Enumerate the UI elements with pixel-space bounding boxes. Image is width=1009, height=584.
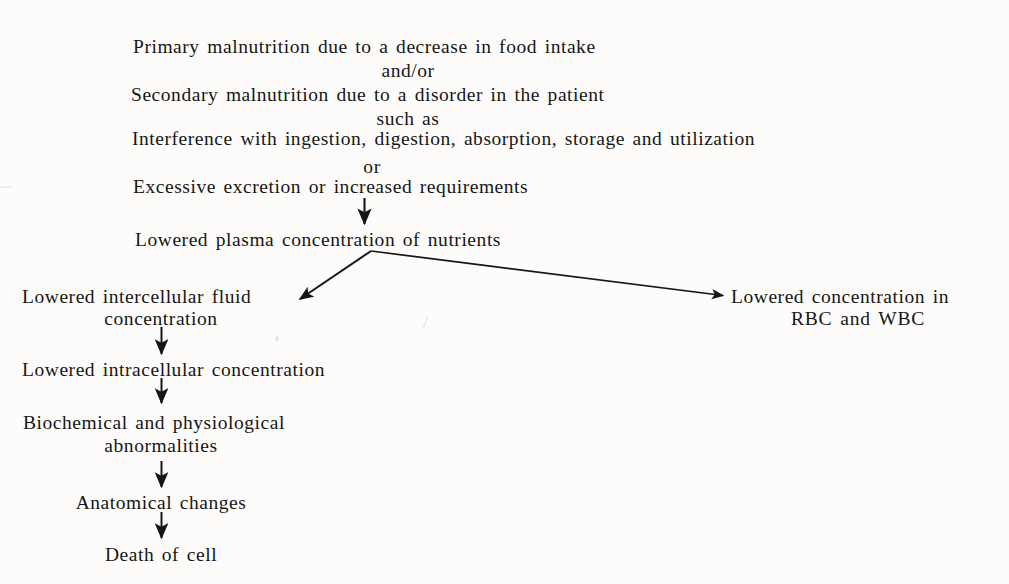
scan-slash-mark	[423, 316, 428, 329]
node-excessive-excretion: Excessive excretion or increased require…	[133, 174, 528, 199]
node-primary-malnutrition: Primary malnutrition due to a decrease i…	[133, 34, 596, 59]
node-intercellular-fluid-line2: concentration	[104, 306, 217, 331]
scan-smudge-left	[0, 186, 12, 188]
node-lowered-intracellular-concentration: Lowered intracellular concentration	[22, 357, 325, 382]
node-death-of-cell: Death of cell	[105, 542, 217, 567]
flowchart-page: Primary malnutrition due to a decrease i…	[0, 0, 1009, 584]
node-rbc-wbc-line2: RBC and WBC	[791, 306, 925, 331]
node-biochemical-line2: abnormalities	[104, 433, 217, 458]
node-interference: Interference with ingestion, digestion, …	[132, 126, 755, 151]
node-lowered-plasma-concentration: Lowered plasma concentration of nutrient…	[135, 227, 501, 252]
scan-speck	[275, 336, 279, 341]
arrow-plasma-to-rbc-wbc	[371, 251, 723, 296]
node-and-or: and/or	[381, 58, 434, 83]
node-anatomical-changes: Anatomical changes	[76, 490, 247, 515]
node-secondary-malnutrition: Secondary malnutrition due to a disorder…	[131, 82, 605, 107]
node-biochemical-line1: Biochemical and physiological	[23, 410, 285, 435]
arrow-plasma-to-intercellular	[300, 251, 371, 299]
